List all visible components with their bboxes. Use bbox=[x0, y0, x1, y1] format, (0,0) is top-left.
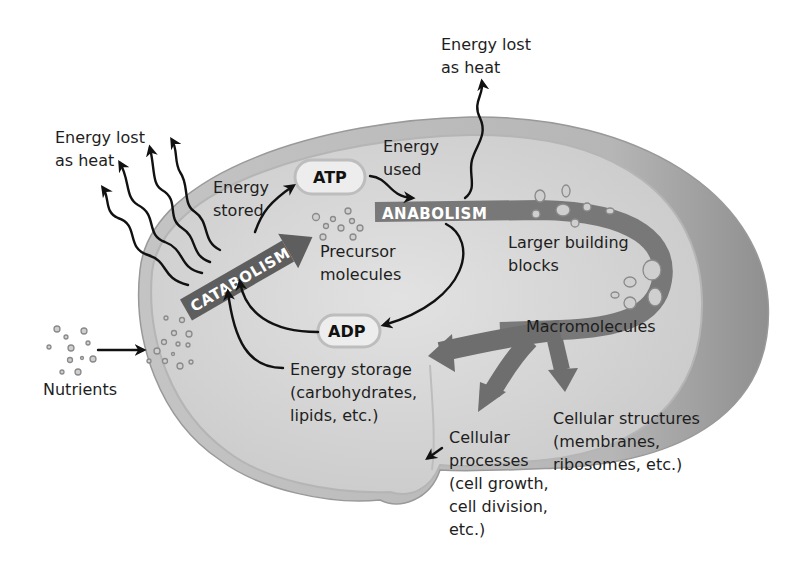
nutrient-dots-outside bbox=[47, 326, 96, 375]
heat-top-label: Energy lost as heat bbox=[441, 35, 536, 77]
atp-label: ATP bbox=[313, 168, 347, 187]
metabolism-diagram: ANABOLISM CATABOLISM bbox=[0, 0, 797, 564]
macromolecules-label: Macromolecules bbox=[526, 317, 656, 336]
heat-left-label: Energy lost as heat bbox=[55, 128, 150, 170]
adp-label: ADP bbox=[328, 322, 366, 341]
anabolism-label: ANABOLISM bbox=[382, 205, 487, 223]
nutrients-label: Nutrients bbox=[43, 380, 117, 399]
